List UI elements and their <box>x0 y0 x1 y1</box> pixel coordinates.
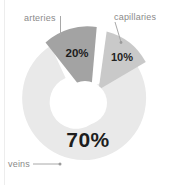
leader-dot-veins <box>59 163 62 166</box>
callout-label-veins: veins <box>8 159 30 169</box>
callout-label-capillaries: capillaries <box>114 12 157 22</box>
value-label-arteries: 20% <box>65 47 88 59</box>
donut-center-hole <box>63 81 107 125</box>
donut-chart: 70% 20% 10% arteries capillaries veins <box>0 0 172 185</box>
chart-canvas: 70% 20% 10% arteries capillaries veins <box>0 0 172 185</box>
leader-dot-capillaries <box>120 41 123 44</box>
value-label-veins: 70% <box>66 128 110 151</box>
callout-label-arteries: arteries <box>24 13 56 23</box>
value-label-capillaries: 10% <box>111 51 133 63</box>
